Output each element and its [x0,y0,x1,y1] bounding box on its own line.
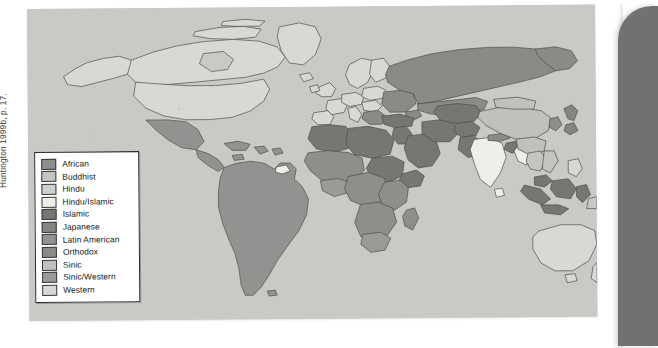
legend-label-western: Western [63,286,95,295]
legend-swatch-islamic [42,209,57,220]
page-edge-bar[interactable] [618,6,658,346]
region-tasmania [565,274,577,283]
legend-item-sinic-western[interactable]: Sinic/Western [42,271,134,284]
legend-item-african[interactable]: African [41,157,133,170]
legend-label-hindu-islamic: Hindu/Islamic [62,197,113,206]
legend-label-hindu: Hindu [62,185,84,194]
legend-item-sinic[interactable]: Sinic [42,258,134,271]
legend-label-sinic: Sinic [63,260,82,269]
legend-swatch-buddhist [41,171,56,182]
legend-swatch-orthodox [42,247,57,258]
source-citation: Huntington 1999b, p. 17. [0,58,8,188]
region-sri-lanka [494,188,504,197]
map-legend: African Buddhist Hindu Hindu/Islamic Isl [34,151,140,302]
region-island-cuba-tail [232,154,244,160]
legend-item-islamic[interactable]: Islamic [42,208,134,221]
legend-swatch-sinic-western [42,272,57,283]
legend-label-islamic: Islamic [63,210,90,219]
legend-item-japanese[interactable]: Japanese [42,220,134,233]
legend-swatch-african [41,159,56,170]
legend-swatch-japanese [42,222,57,233]
legend-label-orthodox: Orthodox [63,248,98,257]
legend-label-japanese: Japanese [63,222,100,231]
legend-swatch-western [42,285,57,296]
scan-speck [88,135,90,137]
legend-item-hindu-islamic[interactable]: Hindu/Islamic [41,195,133,208]
legend-swatch-latin-american [42,234,57,245]
region-poland-baltics [362,86,386,100]
legend-item-hindu[interactable]: Hindu [41,182,133,195]
legend-item-western[interactable]: Western [42,283,134,296]
legend-swatch-sinic [42,259,57,270]
legend-label-latin-american: Latin American [63,235,120,244]
scan-speck [254,142,256,144]
map-figure: African Buddhist Hindu Hindu/Islamic Isl [27,5,597,321]
region-libya-egypt [346,126,394,158]
legend-label-african: African [62,160,89,169]
legend-item-buddhist[interactable]: Buddhist [41,170,133,183]
legend-item-orthodox[interactable]: Orthodox [42,245,134,258]
map-panel: African Buddhist Hindu Hindu/Islamic Isl [27,5,597,321]
legend-swatch-hindu-islamic [41,196,56,207]
legend-item-latin-american[interactable]: Latin American [42,233,134,246]
region-island-falkland [267,290,277,296]
legend-swatch-hindu [41,184,56,195]
legend-label-buddhist: Buddhist [62,172,95,181]
scan-speck [178,108,180,110]
region-germany-central [342,92,364,106]
legend-label-sinic-western: Sinic/Western [63,273,116,282]
